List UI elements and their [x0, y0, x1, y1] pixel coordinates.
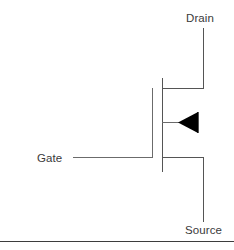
schematic-drawing [0, 0, 234, 250]
arrow-triangle-icon [178, 112, 198, 133]
source-label: Source [185, 224, 222, 236]
gate-label: Gate [37, 152, 62, 164]
schematic-diagram: Drain Gate Source [0, 0, 234, 250]
drain-label: Drain [186, 12, 214, 24]
